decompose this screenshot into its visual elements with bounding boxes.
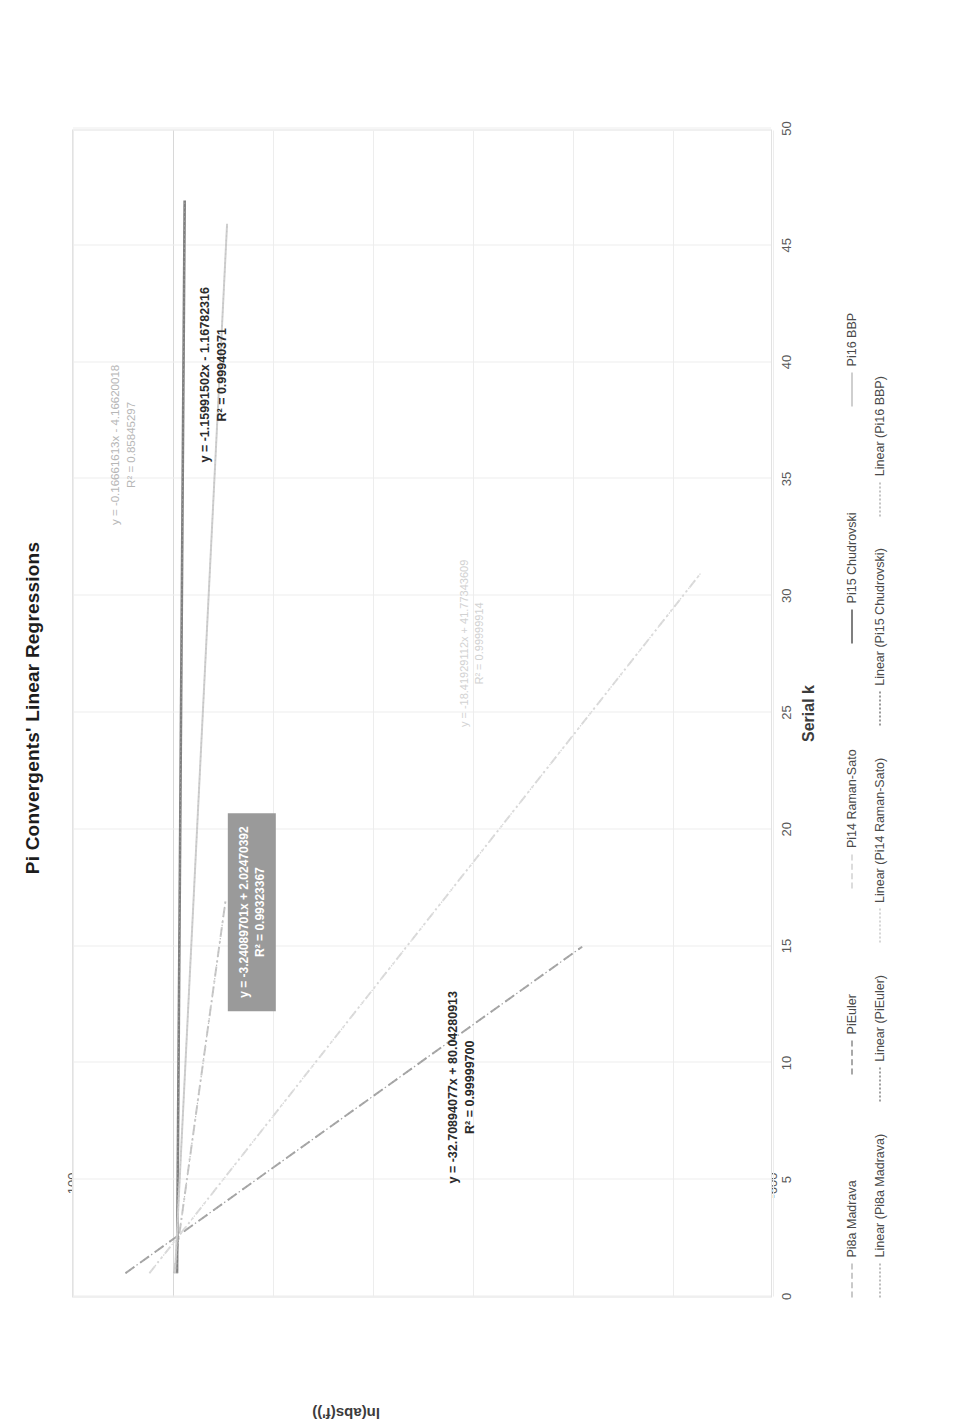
- annotation-pi15-line1: y = -0.16661613x - 4.16620018: [108, 364, 124, 524]
- legend-label: PiEuler: [845, 994, 859, 1034]
- x-tick-label: 15: [779, 938, 794, 952]
- legend-label: Linear (Pi16 BBP): [873, 376, 887, 476]
- series-line-pieuler: [126, 946, 583, 1272]
- x-tick-label: 5: [779, 1176, 794, 1183]
- x-tick-label: 40: [779, 354, 794, 368]
- legend-item[interactable]: Linear (Pi8a Madrava): [873, 1133, 887, 1297]
- annotation-pi16-equation: y = -1.15991502x - 1.16782316 R² = 0.999…: [197, 287, 231, 463]
- annotation-raman-sato-equation: y = -18.41929112x + 41.77343609 R² = 0.9…: [457, 559, 487, 726]
- legend-item[interactable]: Linear (Pi14 Raman-Sato): [873, 757, 887, 942]
- annotation-raman-line1: y = -18.41929112x + 41.77343609: [457, 559, 472, 726]
- legend-swatch-dotted-icon: [879, 1067, 881, 1101]
- x-tick-label: 30: [779, 588, 794, 602]
- legend-item[interactable]: PiEuler: [845, 994, 859, 1074]
- x-tick-label: 45: [779, 238, 794, 252]
- gridline-vertical: [73, 127, 771, 128]
- legend-item[interactable]: Linear (Pi16 BBP): [873, 376, 887, 516]
- legend-swatch-dotted-icon: [879, 691, 881, 725]
- annotation-euler-equation: y = -32.70894077x + 80.04280913 R² = 0.9…: [445, 990, 479, 1183]
- legend-item[interactable]: Pi16 BBP: [845, 312, 859, 406]
- annotation-euler-line1: y = -32.70894077x + 80.04280913: [445, 990, 462, 1183]
- legend-swatch-dotted-icon: [879, 482, 881, 516]
- legend-label: Pi14 Raman-Sato: [845, 749, 859, 848]
- legend-label: Linear (PiEuler): [873, 974, 887, 1061]
- annotation-pi15-line2: R² = 0.85845297: [124, 364, 140, 524]
- x-tick-label: 0: [779, 1292, 794, 1299]
- series-lines: [73, 130, 771, 1296]
- legend-row-series: Pi8a MadravaPiEulerPi14 Raman-SatoPi15 C…: [845, 121, 859, 1297]
- legend-item[interactable]: Pi15 Chudrovski: [845, 512, 859, 643]
- legend-swatch-dash-dot-icon: [851, 1263, 853, 1297]
- annotation-madrava-box: y = -3.24089701x + 2.02470392 R² = 0.993…: [229, 814, 275, 1010]
- legend-swatch-dash-dot-dot-icon: [851, 854, 853, 888]
- legend-label: Pi8a Madrava: [845, 1180, 859, 1257]
- legend-row-trendlines: Linear (Pi8a Madrava)Linear (PiEuler)Lin…: [873, 121, 887, 1297]
- annotation-madrava-inner: y = -3.24089701x + 2.02470392 R² = 0.993…: [229, 814, 275, 1010]
- gridline-horizontal: [773, 130, 774, 1296]
- legend-item[interactable]: Linear (PiEuler): [873, 974, 887, 1101]
- annotation-pi16-line2: R² = 0.99940371: [214, 287, 231, 463]
- annotation-pi15-equation: y = -0.16661613x - 4.16620018 R² = 0.858…: [108, 364, 139, 524]
- x-tick-label: 20: [779, 822, 794, 836]
- annotation-madrava-line1: y = -3.24089701x + 2.02470392: [236, 826, 252, 998]
- legend-label: Pi16 BBP: [845, 312, 859, 366]
- legend-label: Pi15 Chudrovski: [845, 512, 859, 603]
- annotation-euler-line2: R² = 0.99999700: [462, 990, 479, 1183]
- legend-swatch-dotted-icon: [879, 908, 881, 942]
- x-tick-label: 50: [779, 121, 794, 135]
- legend-label: Linear (Pi15 Chudrovski): [873, 548, 887, 686]
- legend-item[interactable]: Linear (Pi15 Chudrovski): [873, 548, 887, 726]
- plot-area: 05101520253035404550: [72, 129, 772, 1297]
- y-axis-label: ln(abs(f')): [312, 1404, 380, 1421]
- legend-swatch-solid-icon: [851, 609, 853, 643]
- x-tick-label: 35: [779, 471, 794, 485]
- chart-legend: Pi8a MadravaPiEulerPi14 Raman-SatoPi15 C…: [845, 121, 887, 1297]
- x-tick-label: 25: [779, 705, 794, 719]
- chart-title: Pi Convergents' Linear Regressions: [22, 0, 44, 1415]
- legend-label: Linear (Pi8a Madrava): [873, 1133, 887, 1257]
- legend-swatch-solid-icon: [851, 372, 853, 406]
- x-tick-label: 10: [779, 1055, 794, 1069]
- x-axis-label: Serial k: [800, 129, 818, 1297]
- legend-item[interactable]: Pi14 Raman-Sato: [845, 749, 859, 888]
- legend-item[interactable]: Pi8a Madrava: [845, 1180, 859, 1297]
- annotation-pi16-line1: y = -1.15991502x - 1.16782316: [197, 287, 214, 463]
- legend-swatch-dotted-icon: [879, 1263, 881, 1297]
- annotation-madrava-line2: R² = 0.99323367: [252, 826, 268, 998]
- legend-label: Linear (Pi14 Raman-Sato): [873, 757, 887, 902]
- legend-swatch-dashed-icon: [851, 1040, 853, 1074]
- annotation-raman-line2: R² = 0.99999914: [472, 559, 487, 726]
